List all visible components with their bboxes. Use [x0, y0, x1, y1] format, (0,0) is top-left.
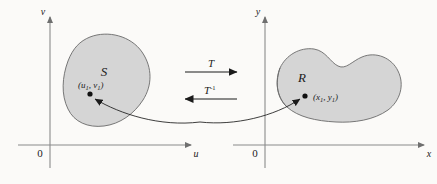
- region-r-label: R: [297, 70, 306, 85]
- region-r-group: [277, 49, 401, 122]
- forward-map-label: T: [208, 57, 215, 69]
- point-u1v1-dot: [87, 91, 92, 96]
- y-axis-label: y: [255, 6, 261, 17]
- point-u1v1-label: (u1, v1): [78, 80, 104, 91]
- region-s-shape: [63, 34, 150, 126]
- svg-text:(x1, y1): (x1, y1): [313, 92, 338, 103]
- x-axis-label: x: [426, 148, 432, 159]
- right-origin-label: 0: [252, 147, 258, 159]
- change-of-variables-figure: v u 0 S (u1, v1) y x 0 R (x1, y1) T T-1: [0, 0, 437, 184]
- left-point-group: [87, 91, 92, 96]
- left-origin-label: 0: [37, 147, 43, 159]
- v-axis-label: v: [41, 6, 46, 17]
- u1v1-close-paren: ): [100, 80, 104, 90]
- region-r-shape: [277, 49, 401, 122]
- right-point-group: [302, 93, 307, 98]
- figure-canvas: v u 0 S (u1, v1) y x 0 R (x1, y1) T T-1: [0, 0, 437, 184]
- svg-text:(u1, v1): (u1, v1): [78, 80, 104, 91]
- inverse-map-label: T-1: [204, 84, 216, 96]
- region-s-label: S: [101, 64, 108, 79]
- x1y1-close-paren: ): [334, 92, 338, 102]
- inverse-map-exponent: -1: [210, 84, 215, 91]
- point-x1y1-label: (x1, y1): [313, 92, 338, 103]
- point-x1y1-dot: [302, 93, 307, 98]
- region-s-group: [63, 34, 150, 126]
- svg-text:T-1: T-1: [204, 84, 216, 96]
- u-axis-label: u: [194, 148, 199, 159]
